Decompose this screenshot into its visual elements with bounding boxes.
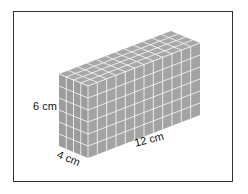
height-label: 6 cm xyxy=(33,100,57,112)
prism-diagram xyxy=(0,0,248,194)
